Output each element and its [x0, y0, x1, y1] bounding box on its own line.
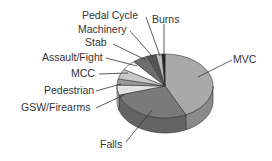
pie-top-slices	[117, 54, 213, 118]
label-falls: Falls	[100, 139, 122, 150]
label-machinery: Machinery	[78, 24, 126, 35]
leader-assault	[106, 58, 137, 66]
label-gsw: GSW/Firearms	[21, 102, 90, 113]
leader-stab	[113, 44, 146, 60]
label-mcc: MCC	[71, 68, 95, 79]
label-mvc: MVC	[233, 54, 256, 65]
label-burns: Burns	[152, 14, 179, 25]
label-stab: Stab	[85, 37, 107, 48]
pie-chart	[0, 0, 272, 161]
leader-machinery	[130, 31, 153, 57]
label-assault: Assault/Fight	[42, 52, 103, 63]
label-pedestrian: Pedestrian	[44, 85, 94, 96]
label-pedal: Pedal Cycle	[82, 10, 138, 21]
